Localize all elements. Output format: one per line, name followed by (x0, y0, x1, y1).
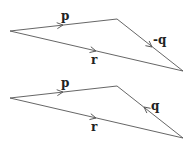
bottom-triangle: p q r (10, 76, 183, 138)
label-p: p (61, 76, 69, 90)
label-p: p (61, 9, 69, 23)
label-r: r (91, 120, 98, 134)
top-triangle: p -q r (10, 9, 183, 71)
label-q: q (151, 99, 160, 113)
label-minus-q: -q (153, 33, 167, 47)
label-r: r (91, 53, 98, 67)
vector-triangle-diagram: p -q r p q r (0, 0, 196, 152)
